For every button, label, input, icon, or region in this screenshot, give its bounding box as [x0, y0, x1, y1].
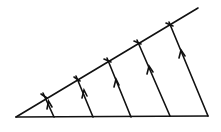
arrow-line-5: [166, 22, 208, 116]
arrow-line-4: [134, 40, 170, 116]
arrow-line-3: [104, 58, 131, 117]
wedge-diagram: [0, 0, 221, 132]
arrow-line-2: [74, 76, 93, 117]
arrow-line-1: [41, 93, 54, 117]
base-line: [16, 116, 208, 117]
